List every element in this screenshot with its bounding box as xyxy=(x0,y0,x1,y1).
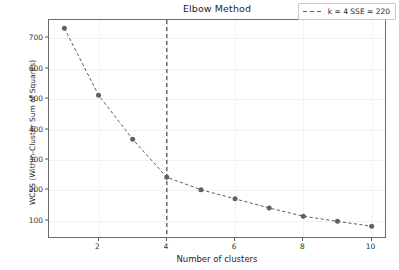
data-point-marker xyxy=(335,219,340,224)
x-tick-label: 8 xyxy=(290,242,314,251)
x-tick-mark xyxy=(234,238,235,241)
data-point-marker xyxy=(96,93,101,98)
data-point-marker xyxy=(164,175,169,180)
legend-dashed-line-icon xyxy=(303,11,323,12)
wcss-line xyxy=(64,28,371,226)
x-tick-label: 2 xyxy=(86,242,110,251)
x-axis-label: Number of clusters xyxy=(48,254,386,264)
y-axis-label: WCSS (Within-Cluster Sum of Squares) xyxy=(28,23,37,242)
legend: k = 4 SSE = 220 xyxy=(298,3,396,20)
y-tick-mark xyxy=(45,37,48,38)
data-point-marker xyxy=(301,214,306,219)
x-tick-mark xyxy=(371,238,372,241)
data-point-marker xyxy=(198,187,203,192)
data-point-marker xyxy=(369,224,374,229)
x-tick-label: 6 xyxy=(222,242,246,251)
y-tick-mark xyxy=(45,67,48,68)
data-point-marker xyxy=(267,205,272,210)
y-tick-mark xyxy=(45,158,48,159)
data-series-layer xyxy=(49,20,386,238)
y-tick-mark xyxy=(45,98,48,99)
x-tick-label: 10 xyxy=(359,242,383,251)
x-tick-mark xyxy=(166,238,167,241)
x-tick-label: 4 xyxy=(154,242,178,251)
x-tick-mark xyxy=(98,238,99,241)
y-tick-mark xyxy=(45,128,48,129)
legend-entry-label: k = 4 SSE = 220 xyxy=(328,7,390,16)
x-tick-mark xyxy=(302,238,303,241)
data-point-marker xyxy=(62,26,67,31)
y-tick-mark xyxy=(45,219,48,220)
y-tick-mark xyxy=(45,189,48,190)
plot-area xyxy=(48,19,386,238)
data-point-marker xyxy=(130,137,135,142)
data-point-marker xyxy=(233,196,238,201)
chart-page: Elbow Method 100200300400500600700 24681… xyxy=(0,0,399,270)
